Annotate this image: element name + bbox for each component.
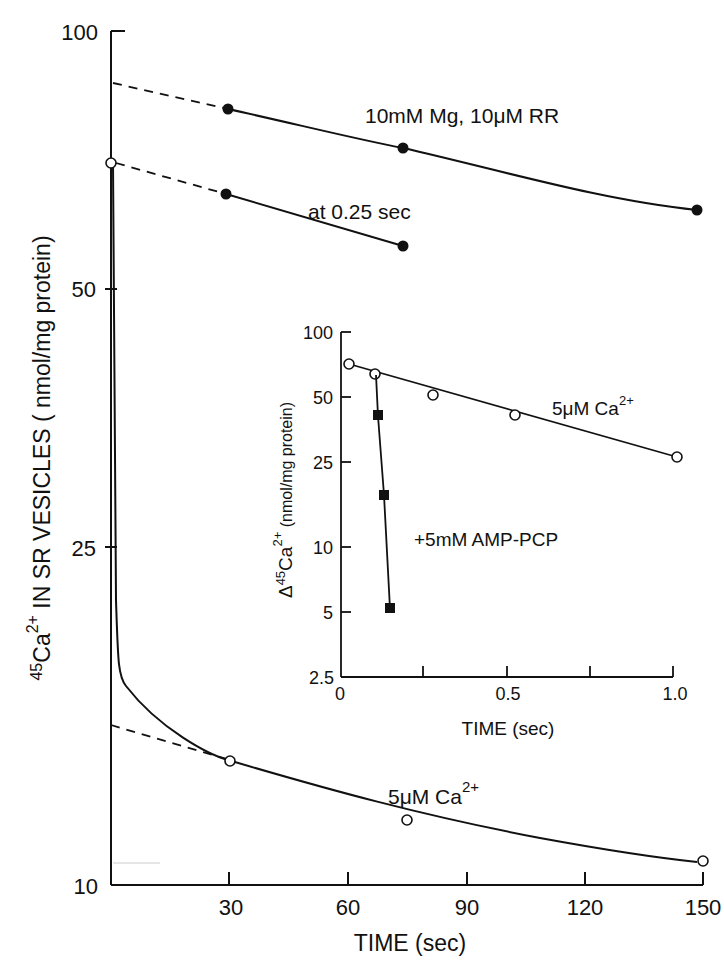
inset-x-tick-0: 0 — [335, 684, 345, 704]
inset-series-ca — [344, 359, 682, 462]
main-y-tick-labels: 100 50 25 10 — [61, 20, 98, 899]
main-x-tick-labels: 30 60 90 120 150 — [219, 895, 722, 920]
inset-ylabel-charge: 2+ — [270, 532, 285, 547]
label-ca-main-text: 5μM Ca — [388, 785, 462, 808]
y-tick-25: 25 — [72, 536, 96, 561]
inset-y-tick-5: 5 — [323, 603, 333, 623]
inset-y-axis-label: Δ45Ca2+ (nmol/mg protein) — [270, 402, 296, 598]
label-mg-rr: 10mM Mg, 10μM RR — [365, 104, 559, 127]
svg-text:45Ca2+ IN SR VESICLES ( nmol/m: 45Ca2+ IN SR VESICLES ( nmol/mg protein) — [24, 235, 55, 680]
inset-y-tick-labels: 100 50 25 10 5 2.5 — [303, 323, 334, 688]
ylabel-ion: Ca — [29, 633, 55, 663]
inset-x-tick-0-5: 0.5 — [495, 684, 520, 704]
x-tick-150: 150 — [685, 895, 722, 920]
ylabel-isotope: 45 — [28, 663, 45, 681]
inset-label-amp-pcp: +5mM AMP-PCP — [414, 529, 558, 550]
inset-label-ca: 5μM Ca2+ — [552, 393, 634, 419]
x-tick-30: 30 — [219, 895, 243, 920]
inset-label-ca-text: 5μM Ca — [552, 398, 619, 419]
inset-chart — [341, 332, 673, 677]
svg-text:Δ45Ca2+ (nmol/mg protein): Δ45Ca2+ (nmol/mg protein) — [270, 402, 296, 598]
x-tick-120: 120 — [567, 895, 604, 920]
inset-x-axis-label: TIME (sec) — [462, 718, 555, 739]
x-tick-60: 60 — [336, 895, 360, 920]
inset-y-tick-50: 50 — [313, 388, 333, 408]
inset-series-amp-pcp — [373, 375, 395, 613]
main-chart — [105, 31, 703, 885]
inset-label-ca-charge: 2+ — [619, 393, 634, 408]
inset-ylabel-isotope: 45 — [273, 571, 288, 585]
y-tick-10: 10 — [74, 874, 98, 899]
y-tick-100: 100 — [61, 20, 98, 45]
inset-ylabel-ion: Ca — [275, 546, 296, 571]
label-at-025-sec: at 0.25 sec — [308, 200, 411, 223]
figure: 100 50 25 10 30 60 90 120 150 TIME (sec)… — [0, 0, 724, 963]
label-ca-main-charge: 2+ — [462, 778, 479, 795]
label-ca-main: 5μM Ca2+ — [388, 778, 479, 808]
x-tick-90: 90 — [455, 895, 479, 920]
series-mg-rr — [113, 83, 703, 216]
inset-y-tick-100: 100 — [303, 323, 333, 343]
inset-y-tick-2-5: 2.5 — [309, 668, 334, 688]
inset-y-tick-10: 10 — [313, 538, 333, 558]
ylabel-charge: 2+ — [24, 615, 41, 633]
inset-x-tick-1-0: 1.0 — [662, 684, 687, 704]
main-x-axis-label: TIME (sec) — [354, 930, 466, 956]
y-tick-50: 50 — [72, 277, 96, 302]
inset-y-tick-25: 25 — [313, 453, 333, 473]
main-y-axis-label: 45Ca2+ IN SR VESICLES ( nmol/mg protein) — [24, 235, 55, 680]
series-ca-main — [106, 158, 708, 866]
ylabel-rest: IN SR VESICLES ( nmol/mg protein) — [29, 235, 55, 615]
inset-ylabel-delta: Δ — [275, 585, 296, 598]
inset-ylabel-rest: (nmol/mg protein) — [278, 402, 295, 532]
inset-x-tick-labels: 0 0.5 1.0 — [335, 684, 688, 704]
